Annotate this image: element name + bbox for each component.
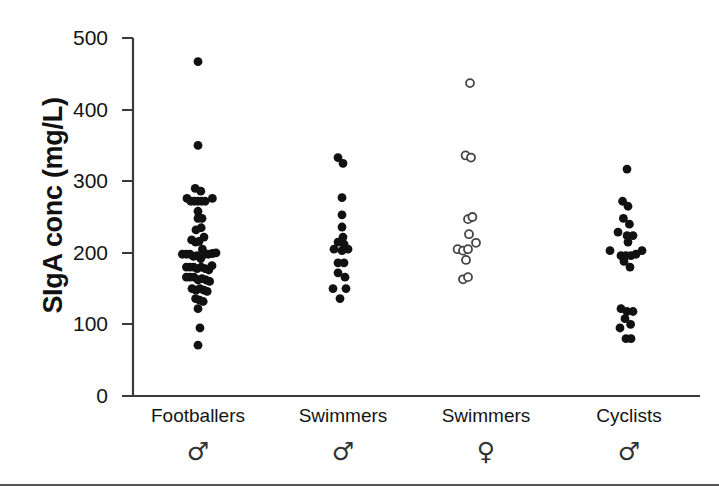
data-point [208, 261, 217, 270]
sex-symbol-cyclists: ♂ [559, 437, 699, 466]
data-point [627, 334, 636, 343]
footer-divider [0, 484, 719, 486]
data-point [208, 194, 217, 203]
data-point [341, 273, 350, 282]
data-points-swimmers-male [329, 153, 353, 303]
data-point [626, 263, 635, 272]
data-point [638, 246, 647, 255]
x-axis-label-cyclists: Cyclists [559, 405, 699, 427]
data-point [336, 294, 345, 303]
data-point [329, 284, 338, 293]
data-point [338, 193, 347, 202]
data-point [472, 239, 480, 247]
data-point [338, 210, 347, 219]
sex-symbol-swimmers-female: ♀ [416, 437, 556, 466]
data-point [606, 246, 615, 255]
data-point [626, 320, 635, 329]
data-points-swimmers-female [454, 79, 480, 283]
data-point [624, 202, 633, 211]
data-point [339, 159, 348, 168]
data-point [195, 237, 204, 246]
data-point [614, 228, 623, 237]
data-point [205, 277, 214, 286]
axis-lines [122, 38, 700, 396]
data-point [465, 230, 473, 238]
data-point [212, 248, 221, 257]
data-point [623, 165, 632, 174]
data-point [468, 213, 476, 221]
data-point [338, 223, 347, 232]
x-axis-label-footballers: Footballers [128, 405, 268, 427]
data-point [342, 284, 351, 293]
x-axis-label-swimmers-female: Swimmers [416, 405, 556, 427]
data-point [616, 324, 625, 333]
data-point [194, 341, 203, 350]
data-point [624, 238, 633, 247]
data-points-cyclists [606, 165, 647, 343]
data-point [466, 79, 474, 87]
data-point [196, 324, 205, 333]
data-point [464, 245, 472, 253]
data-point [625, 220, 634, 229]
data-point [203, 287, 212, 296]
data-point [467, 154, 475, 162]
data-point [464, 273, 472, 281]
data-point [629, 307, 638, 316]
data-point [340, 258, 349, 267]
figure-container: SIgA conc (mg/L) 500 400 300 200 100 0 F… [0, 0, 719, 495]
data-point [194, 141, 203, 150]
data-point [462, 256, 470, 264]
data-point [196, 187, 205, 196]
data-point [194, 57, 203, 66]
data-point [198, 214, 207, 223]
sex-symbol-footballers: ♂ [128, 437, 268, 466]
data-point [330, 245, 339, 254]
data-point [194, 304, 203, 313]
data-point [197, 223, 206, 232]
data-point [344, 245, 353, 254]
data-point [199, 297, 208, 306]
data-points-footballers [178, 57, 220, 349]
x-axis-label-swimmers-male: Swimmers [273, 405, 413, 427]
sex-symbol-swimmers-male: ♂ [273, 437, 413, 466]
